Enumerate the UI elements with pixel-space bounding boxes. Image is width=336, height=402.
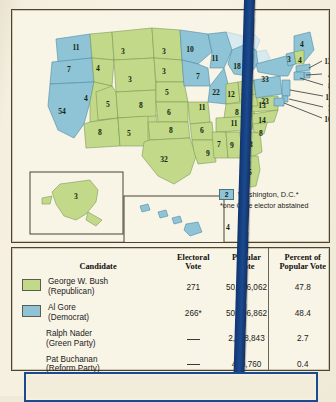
candidate-text: Ralph Nader(Green Party): [46, 329, 96, 349]
dash-mark: [187, 339, 200, 340]
state-label-tx: 32: [160, 155, 168, 164]
cell-electoral-vote: 271: [170, 274, 217, 300]
candidate-wrap: Al Gore(Democrat): [22, 303, 170, 323]
state-label-mt: 3: [121, 47, 125, 56]
state-label-ar: 6: [200, 126, 204, 135]
cell-percent: 48.4: [277, 300, 330, 326]
state-label-tn: 11: [230, 119, 237, 128]
state-label-de: 3: [328, 104, 330, 113]
state-label-ca: 54: [58, 107, 66, 116]
header-candidate: Candidate: [12, 248, 170, 274]
state-label-mn: 10: [186, 45, 194, 54]
table-head: Candidate Electoral Vote Popular Vote Pe…: [12, 248, 329, 274]
party-color-swatch: [22, 279, 41, 291]
state-label-mo: 11: [198, 103, 205, 112]
state-label-ne: 5: [165, 88, 169, 97]
bottom-blue-box-inner: [28, 376, 314, 398]
candidate-party: (Green Party): [46, 339, 96, 349]
state-label-nv: 4: [84, 94, 88, 103]
state-label-ny: 33: [261, 75, 269, 84]
state-label-nc: 14: [258, 116, 266, 125]
candidate-party: (Republican): [48, 287, 108, 297]
candidate-party: (Democrat): [48, 313, 89, 323]
candidate-name: Pat Buchanan: [46, 355, 100, 365]
cell-electoral-vote: [170, 326, 217, 352]
state-label-sd: 3: [162, 67, 166, 76]
state-label-la: 9: [206, 149, 210, 158]
candidate-name: George W. Bush: [48, 277, 108, 287]
cell-candidate: George W. Bush(Republican): [12, 274, 170, 300]
dc-legend-row: 2 Washington, D.C.*: [219, 189, 336, 200]
results-table-panel: Candidate Electoral Vote Popular Vote Pe…: [11, 247, 330, 371]
state-label-ri: 4: [328, 71, 330, 80]
state-label-nh: 4: [298, 56, 302, 65]
header-percent-line1: Percent of: [277, 253, 330, 262]
state-label-az: 8: [98, 128, 102, 137]
state-label-wi: 11: [211, 54, 218, 63]
table-row: George W. Bush(Republican)27150,456,0624…: [12, 274, 329, 300]
dc-legend: 2 Washington, D.C.* *one Gore elector ab…: [219, 189, 336, 211]
state-label-sc: 8: [259, 129, 263, 138]
state-label-ok: 8: [169, 126, 173, 135]
state-label-ut: 5: [106, 100, 110, 109]
header-percent: Percent of Popular Vote: [277, 248, 330, 274]
table-header-row: Candidate Electoral Vote Popular Vote Pe…: [12, 248, 329, 274]
cell-candidate: Ralph Nader(Green Party): [12, 326, 170, 352]
cell-candidate: Al Gore(Democrat): [12, 300, 170, 326]
state-label-wy: 3: [128, 75, 132, 84]
candidate-name: Al Gore: [48, 303, 89, 313]
state-label-id: 4: [96, 64, 100, 73]
state-label-md: 10: [324, 115, 330, 124]
header-percent-line2: Popular Vote: [277, 262, 330, 271]
header-electoral-line1: Electoral: [170, 253, 217, 262]
candidate-name: Ralph Nader: [46, 329, 96, 339]
bottom-blue-box: [24, 372, 318, 402]
party-color-swatch: [22, 305, 41, 317]
candidate-text: Al Gore(Democrat): [48, 303, 89, 323]
cell-electoral-vote: 266*: [170, 300, 217, 326]
state-label-wa: 11: [72, 43, 79, 52]
state-label-il: 22: [212, 88, 220, 97]
table-vertical-rule: [268, 248, 269, 370]
state-label-or: 7: [67, 65, 71, 74]
candidate-wrap: George W. Bush(Republican): [22, 277, 170, 297]
header-electoral-vote: Electoral Vote: [170, 248, 217, 274]
candidate-text: George W. Bush(Republican): [48, 277, 108, 297]
state-label-ia: 7: [196, 72, 200, 81]
state-label-pa: 23: [261, 97, 269, 106]
state-label-ma: 12: [324, 57, 330, 66]
election-results-table: Candidate Electoral Vote Popular Vote Pe…: [12, 248, 329, 377]
state-label-vt: 3: [287, 55, 291, 64]
state-label-ky: 8: [235, 108, 239, 117]
state-label-me: 4: [300, 40, 304, 49]
state-label-mi: 18: [233, 62, 241, 71]
dc-swatch: 2: [219, 189, 234, 200]
table-row: Al Gore(Democrat)266*50,996,86248.4: [12, 300, 329, 326]
table-body: George W. Bush(Republican)27150,456,0624…: [12, 274, 329, 377]
party-color-swatch: [22, 331, 39, 341]
state-label-ms: 7: [217, 140, 221, 149]
state-label-nj: 15: [325, 93, 330, 102]
state-label-nd: 3: [162, 47, 166, 56]
state-label-in: 12: [227, 90, 235, 99]
header-electoral-line2: Vote: [170, 262, 217, 271]
state-label-hi: 4: [226, 223, 230, 232]
party-color-swatch: [22, 357, 39, 367]
state-label-ct: 8: [328, 82, 330, 91]
dash-mark: [187, 364, 200, 365]
candidate-wrap: Ralph Nader(Green Party): [22, 329, 170, 349]
table-row: Ralph Nader(Green Party)2,858,8432.7: [12, 326, 329, 352]
state-label-co: 8: [139, 101, 143, 110]
state-label-al: 9: [230, 141, 234, 150]
state-label-nm: 5: [127, 129, 131, 138]
state-label-ks: 6: [167, 108, 171, 117]
cell-percent: 2.7: [277, 326, 330, 352]
state-label-ak: 3: [74, 192, 78, 201]
cell-percent: 47.8: [277, 274, 330, 300]
